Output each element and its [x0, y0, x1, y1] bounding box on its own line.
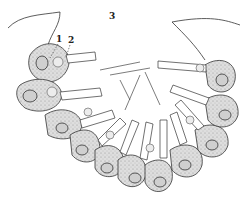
label-1: 1	[56, 35, 62, 44]
colony-drawing	[0, 0, 251, 211]
flagellum-right	[172, 19, 240, 60]
flagellum-left	[8, 12, 60, 28]
figure-number: 3	[109, 12, 115, 21]
label-2: 2	[68, 36, 74, 45]
illustration	[0, 0, 251, 211]
